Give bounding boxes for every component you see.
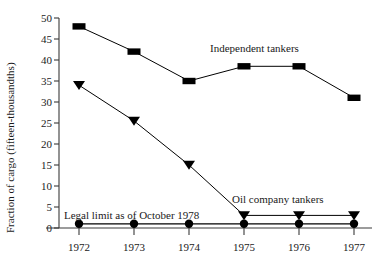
- x-tick-1974: 1974: [178, 241, 201, 253]
- y-tick-labels: 50 45 40 35 30 25 20 15 10 5 0: [41, 12, 53, 234]
- y-tick-20: 20: [41, 138, 53, 150]
- series-independent-tankers: [73, 23, 361, 101]
- x-axis: [46, 228, 372, 235]
- x-tick-1976: 1976: [288, 241, 311, 253]
- marker-square: [73, 23, 86, 29]
- chart-svg: Fraction of cargo (fifteen-thousandths) …: [0, 0, 379, 269]
- marker-square: [293, 63, 306, 69]
- y-tick-10: 10: [41, 180, 53, 192]
- y-tick-40: 40: [41, 54, 53, 66]
- y-axis: [54, 18, 59, 228]
- y-tick-15: 15: [41, 159, 53, 171]
- x-tick-1977: 1977: [343, 241, 366, 253]
- marker-circle: [295, 220, 303, 228]
- x-tick-1972: 1972: [68, 241, 90, 253]
- y-tick-45: 45: [41, 33, 53, 45]
- marker-square: [128, 48, 141, 54]
- y-tick-50: 50: [41, 12, 53, 24]
- y-tick-30: 30: [41, 96, 53, 108]
- marker-circle: [240, 220, 248, 228]
- label-independent-tankers: Independent tankers: [210, 42, 299, 54]
- marker-circle: [350, 220, 358, 228]
- marker-triangle-down: [73, 81, 85, 90]
- label-oil-company-tankers: Oil company tankers: [232, 193, 324, 205]
- x-tick-1975: 1975: [233, 241, 256, 253]
- y-tick-25: 25: [41, 117, 53, 129]
- series-annotations: Independent tankers Oil company tankers …: [64, 42, 324, 221]
- y-tick-5: 5: [47, 201, 53, 213]
- label-legal-limit: Legal limit as of October 1978: [64, 209, 200, 221]
- marker-square: [238, 63, 251, 69]
- y-axis-title: Fraction of cargo (fifteen-thousandths): [4, 62, 17, 233]
- y-tick-35: 35: [41, 75, 53, 87]
- x-tick-labels: 1972 1973 1974 1975 1976 1977: [68, 241, 366, 253]
- marker-square: [348, 95, 361, 101]
- chart-figure: Fraction of cargo (fifteen-thousandths) …: [0, 0, 379, 269]
- y-axis-title-text: Fraction of cargo (fifteen-thousandths): [4, 62, 17, 233]
- marker-square: [183, 78, 196, 84]
- x-tick-1973: 1973: [123, 241, 146, 253]
- series-line: [79, 26, 354, 97]
